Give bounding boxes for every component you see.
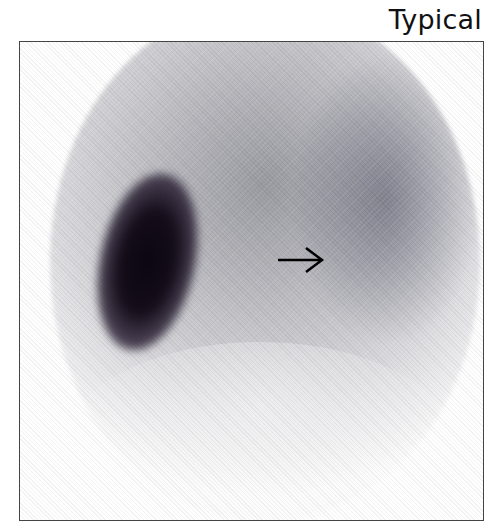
scan-image-frame <box>19 41 484 521</box>
image-label: Typical <box>389 4 482 35</box>
arrow-right-icon <box>276 246 326 274</box>
scan-noise-texture <box>20 42 483 520</box>
